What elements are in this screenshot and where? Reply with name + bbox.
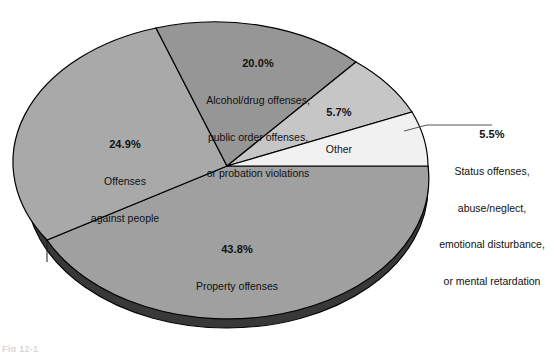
slice-desc-status-line4: or mental retardation — [430, 275, 554, 287]
slice-label-property: 43.8% Property offenses — [172, 219, 302, 317]
slice-desc-property-line1: Property offenses — [172, 280, 302, 292]
slice-label-people: 24.9% Offenses against people — [62, 114, 188, 248]
slice-label-other: 5.7% Other — [304, 82, 374, 180]
slice-desc-status-line3: emotional disturbance, — [430, 238, 554, 250]
slice-desc-people-line1: Offenses — [62, 175, 188, 187]
slice-label-status: 5.5% Status offenses, abuse/neglect, emo… — [430, 104, 554, 312]
slice-percent-property: 43.8% — [172, 243, 302, 256]
slice-percent-alcohol-drug: 20.0% — [168, 57, 348, 70]
slice-percent-status: 5.5% — [430, 128, 554, 141]
slice-percent-other: 5.7% — [304, 106, 374, 119]
slice-desc-people-line2: against people — [62, 212, 188, 224]
pie-chart-figure: 20.0% Alcohol/drug offenses, public orde… — [0, 0, 554, 352]
slice-desc-other-line1: Other — [304, 143, 374, 155]
slice-percent-people: 24.9% — [62, 138, 188, 151]
slice-desc-status-line1: Status offenses, — [430, 165, 554, 177]
figure-caption-fragment: Fig 12-1 — [2, 344, 122, 352]
slice-desc-status-line2: abuse/neglect, — [430, 202, 554, 214]
